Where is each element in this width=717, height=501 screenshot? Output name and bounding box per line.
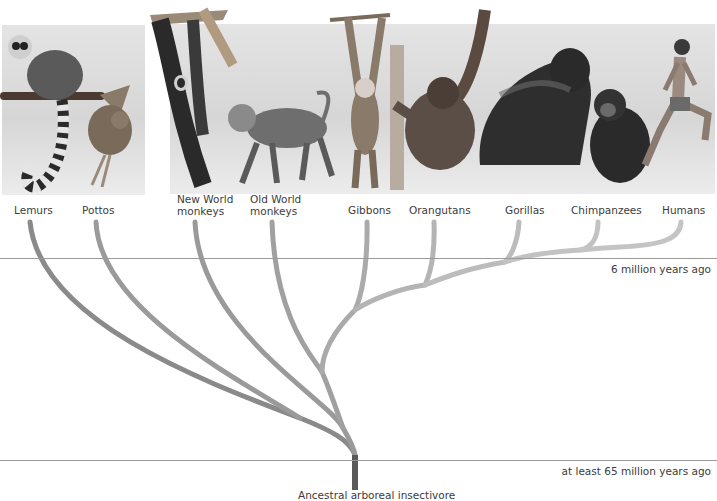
timeline-65-mya bbox=[0, 460, 717, 461]
timeline-6-mya bbox=[0, 258, 717, 259]
root-label: Ancestral arboreal insectivore bbox=[298, 489, 455, 501]
timeline-label-6-mya: 6 million years ago bbox=[611, 263, 711, 275]
timeline-label-65-mya: at least 65 million years ago bbox=[562, 465, 711, 477]
